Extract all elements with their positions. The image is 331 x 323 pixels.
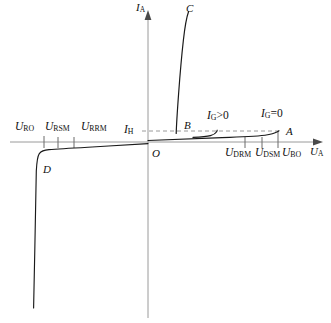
- reverse-voltage-mark-ursm: URSM: [45, 121, 70, 133]
- x-axis-label: UA: [310, 146, 323, 158]
- gate-current-zero-label: IG=0: [261, 108, 283, 120]
- point-c-label: C: [186, 3, 193, 14]
- forward-voltage-mark-udsm: UDSM: [255, 147, 280, 159]
- forward-voltage-mark-udrm: UDRM: [225, 147, 251, 159]
- point-d-label: D: [43, 164, 51, 175]
- curve-forward-blocking-ig-zero: [148, 131, 279, 141]
- y-axis: [145, 10, 152, 318]
- characteristic-curve-canvas: [0, 0, 331, 323]
- point-b-label: B: [184, 120, 191, 131]
- origin-label: O: [152, 148, 160, 159]
- holding-current-label: IH: [124, 124, 134, 136]
- thyristor-vi-characteristic-figure: IA UA O IH C B A D IG>0 IG=0 UDRM UDSM U…: [0, 0, 331, 323]
- curve-forward-conduction-bc: [176, 12, 188, 134]
- point-a-label: A: [286, 126, 293, 137]
- forward-voltage-mark-ubo: UBO: [282, 147, 301, 159]
- reverse-voltage-mark-uro: URO: [15, 121, 34, 133]
- reverse-voltage-mark-urrm: URRM: [81, 121, 107, 133]
- gate-current-positive-label: IG>0: [207, 110, 229, 122]
- y-axis-label: IA: [136, 2, 145, 14]
